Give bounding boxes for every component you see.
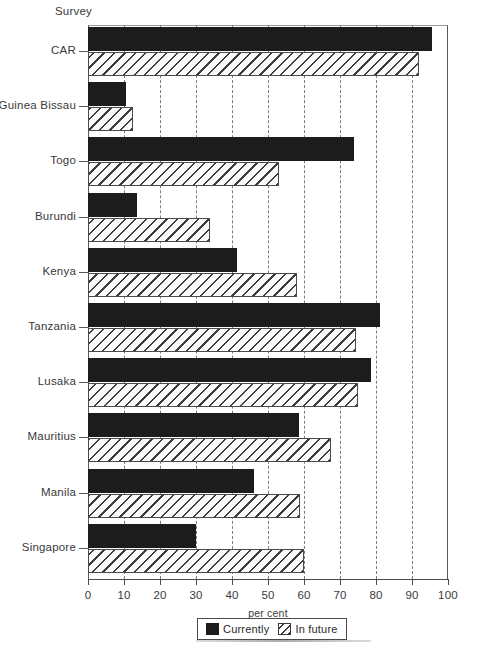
bar-currently	[88, 303, 380, 327]
y-axis-tick	[79, 382, 88, 383]
legend-label-currently: Currently	[223, 623, 269, 635]
category-label: Guinea Bissau	[0, 99, 76, 111]
y-axis-tick	[79, 272, 88, 273]
bar-in-future	[88, 438, 331, 462]
category-label: Singapore	[22, 541, 76, 553]
x-axis-tick-70	[340, 579, 341, 585]
hatched-swatch-icon	[278, 623, 291, 635]
x-axis-tick-label-100: 100	[428, 589, 468, 601]
y-axis-tick-label: Guinea Bissau	[0, 99, 76, 113]
x-axis-tick-100	[448, 579, 449, 585]
y-axis-tick	[79, 106, 88, 107]
bar-in-future	[88, 328, 356, 352]
x-axis-tick-label-70: 70	[320, 589, 360, 601]
bar-in-future	[88, 218, 210, 242]
legend-entry-in-future: In future	[278, 623, 337, 635]
category-label: CAR	[51, 44, 76, 56]
y-axis-tick-label: Togo	[0, 154, 76, 168]
bar-chart: Survey CARGuinea BissauTogoBurundiKenyaT…	[0, 0, 477, 655]
x-axis-tick-10	[124, 579, 125, 585]
category-label: Mauritius	[28, 430, 76, 442]
x-axis-tick-label-30: 30	[176, 589, 216, 601]
legend-label-in-future: In future	[295, 623, 337, 635]
bar-group	[88, 137, 448, 187]
bar-in-future	[88, 52, 419, 76]
bar-in-future	[88, 494, 300, 518]
x-axis-tick-60	[304, 579, 305, 585]
x-axis-tick-0	[88, 579, 89, 585]
category-label: Kenya	[42, 265, 76, 277]
bar-group	[88, 524, 448, 574]
y-axis-tick-label: Lusaka	[0, 375, 76, 389]
bar-in-future	[88, 162, 279, 186]
x-axis-tick-30	[196, 579, 197, 585]
y-axis-tick-label: Burundi	[0, 210, 76, 224]
bar-in-future	[88, 273, 297, 297]
category-label: Burundi	[35, 210, 76, 222]
bar-group	[88, 193, 448, 243]
bar-in-future	[88, 383, 358, 407]
x-axis-tick-label-10: 10	[104, 589, 144, 601]
legend-entry-currently: Currently	[206, 623, 269, 635]
bar-currently	[88, 193, 137, 217]
category-label: Manila	[41, 486, 76, 498]
bar-group	[88, 413, 448, 463]
x-axis-tick-label-90: 90	[392, 589, 432, 601]
bar-group	[88, 303, 448, 353]
y-axis-header: Survey	[55, 5, 92, 17]
category-label: Tanzania	[28, 320, 76, 332]
x-axis-tick-label-80: 80	[356, 589, 396, 601]
category-label: Togo	[50, 154, 76, 166]
category-label: Lusaka	[38, 375, 76, 387]
scan-artifact	[196, 640, 371, 642]
bar-in-future	[88, 549, 304, 573]
legend: Currently In future	[197, 618, 347, 640]
y-axis-tick	[79, 161, 88, 162]
y-axis-tick	[79, 548, 88, 549]
y-axis-tick-label: Kenya	[0, 265, 76, 279]
bar-group	[88, 248, 448, 298]
x-axis-tick-80	[376, 579, 377, 585]
x-axis-tick-label-40: 40	[212, 589, 252, 601]
x-axis-tick-label-50: 50	[248, 589, 288, 601]
y-axis-tick-label: Manila	[0, 486, 76, 500]
y-axis-tick-label: Singapore	[0, 541, 76, 555]
y-axis-tick	[79, 327, 88, 328]
bar-in-future	[88, 107, 133, 131]
y-axis-tick	[79, 217, 88, 218]
x-axis-tick-label-20: 20	[140, 589, 180, 601]
solid-black-swatch-icon	[206, 623, 219, 635]
bar-currently	[88, 137, 354, 161]
y-axis-tick-label: CAR	[0, 44, 76, 58]
bar-group	[88, 469, 448, 519]
bar-group	[88, 82, 448, 132]
bar-currently	[88, 524, 196, 548]
bar-currently	[88, 82, 126, 106]
bar-currently	[88, 469, 254, 493]
x-axis-tick-90	[412, 579, 413, 585]
x-axis-tick-label-0: 0	[68, 589, 108, 601]
x-axis-tick-40	[232, 579, 233, 585]
bar-currently	[88, 413, 299, 437]
y-axis-tick	[79, 493, 88, 494]
y-axis-tick	[79, 437, 88, 438]
y-axis-tick-label: Mauritius	[0, 430, 76, 444]
y-axis-tick	[79, 51, 88, 52]
bar-group	[88, 358, 448, 408]
bar-group	[88, 27, 448, 77]
y-axis-tick-label: Tanzania	[0, 320, 76, 334]
bar-currently	[88, 358, 371, 382]
bar-currently	[88, 248, 237, 272]
x-axis-tick-20	[160, 579, 161, 585]
x-axis-tick-label-60: 60	[284, 589, 324, 601]
bar-currently	[88, 27, 432, 51]
x-axis-tick-50	[268, 579, 269, 585]
